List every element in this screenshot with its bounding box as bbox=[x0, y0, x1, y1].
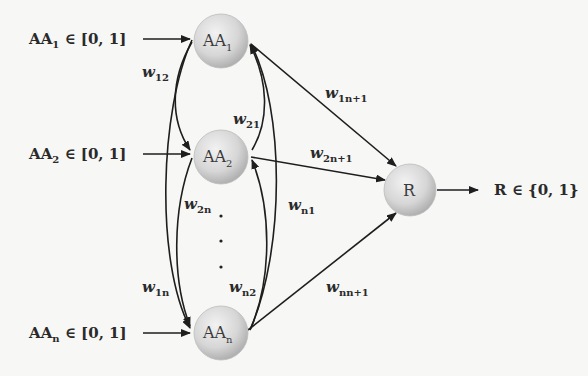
weight-label-w1n1: w1n+1 bbox=[325, 84, 368, 104]
weight-label-w2n: w2n bbox=[184, 195, 212, 215]
node-aa1: AA1 bbox=[194, 14, 248, 68]
node-r: R bbox=[384, 164, 436, 216]
weight-label-w2n1: w2n+1 bbox=[310, 144, 353, 164]
node-aa2: AA2 bbox=[194, 130, 248, 184]
edge-w12 bbox=[175, 42, 192, 150]
node-aan: AAn bbox=[194, 306, 248, 360]
ellipsis-dot bbox=[219, 265, 222, 268]
input-label-1: AA1 ∈ [0, 1] bbox=[28, 30, 126, 50]
edge-w1n1 bbox=[251, 44, 396, 166]
weight-label-w1n: w1n bbox=[142, 278, 170, 298]
edge-wnn1 bbox=[248, 213, 396, 330]
svg-text:R: R bbox=[403, 181, 416, 200]
ellipsis-dot bbox=[219, 214, 222, 217]
input-label-2: AA2 ∈ [0, 1] bbox=[28, 145, 126, 165]
weight-label-wn1: wn1 bbox=[288, 196, 315, 216]
input-label-n: AAn ∈ [0, 1] bbox=[28, 324, 127, 344]
edge-wn2 bbox=[250, 160, 267, 330]
output-label: R ∈ {0, 1} bbox=[494, 181, 579, 199]
network-diagram: AA1 AA2 AAn R AA1 ∈ [0, 1] AA2 ∈ [0, 1] … bbox=[0, 0, 588, 376]
weight-label-w12: w12 bbox=[142, 63, 169, 83]
weight-label-wnn1: wnn+1 bbox=[326, 278, 369, 298]
ellipsis-dot bbox=[219, 239, 222, 242]
weight-label-w21: w21 bbox=[233, 110, 260, 130]
edge-w21 bbox=[250, 45, 265, 150]
weight-label-wn2: wn2 bbox=[229, 278, 256, 298]
